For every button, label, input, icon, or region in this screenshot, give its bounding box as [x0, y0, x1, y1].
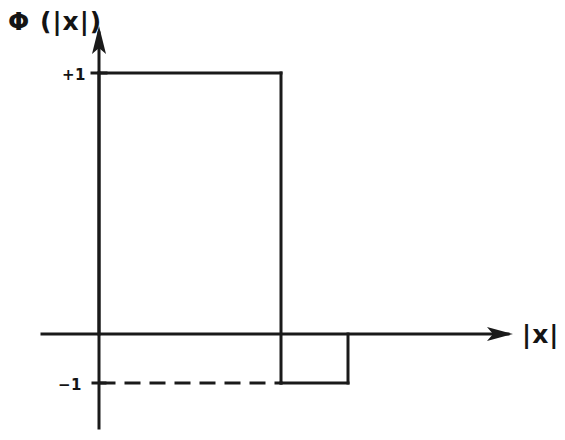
tick-label-negative-one: −1	[58, 376, 82, 394]
axes-group	[42, 26, 513, 428]
step-function-trace	[99, 73, 348, 383]
plot-canvas: Φ (|x|) |x| +1 −1	[0, 0, 565, 440]
figure-root: Φ (|x|) |x| +1 −1	[0, 0, 565, 440]
tick-label-positive-one: +1	[62, 66, 86, 84]
y-axis-label: Φ (|x|)	[8, 7, 102, 36]
x-axis-label: |x|	[522, 320, 559, 349]
